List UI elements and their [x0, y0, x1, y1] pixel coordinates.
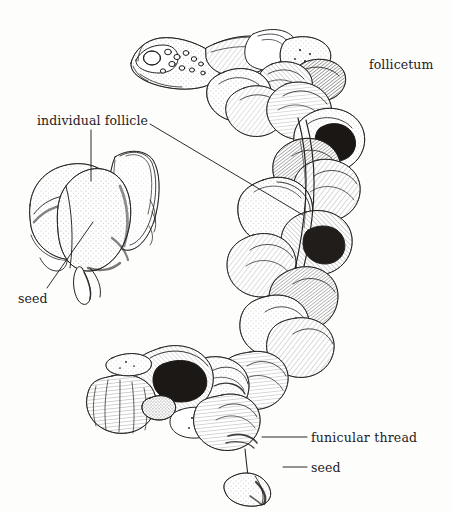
label-funicular-thread: funicular thread — [311, 430, 417, 445]
individual-follicle-detail — [30, 151, 160, 304]
label-follicetum: follicetum — [369, 57, 433, 72]
peduncle — [131, 38, 220, 90]
hanging-seed-group — [224, 449, 271, 506]
label-seed-left: seed — [18, 291, 48, 306]
botanical-figure: follicetum individual follicle seed funi… — [0, 0, 452, 513]
label-individual-follicle: individual follicle — [37, 113, 148, 128]
label-seed-bottom: seed — [311, 460, 341, 475]
